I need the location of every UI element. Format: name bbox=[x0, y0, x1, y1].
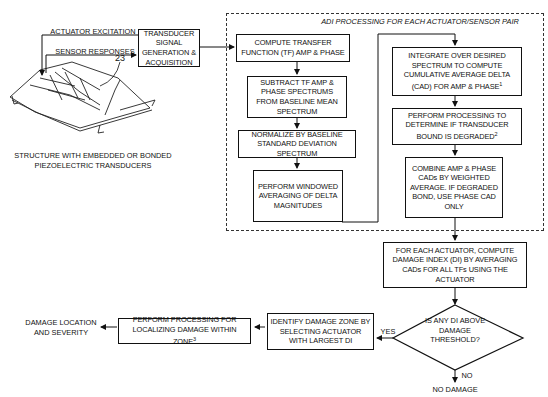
actuator-excitation-label: ACTUATOR EXCITATION bbox=[48, 27, 138, 37]
adi-group-title: ADI PROCESSING FOR EACH ACTUATOR/SENSOR … bbox=[300, 17, 540, 27]
damage-location-output: DAMAGE LOCATION AND SEVERITY bbox=[22, 318, 100, 337]
yes-label: YES bbox=[380, 327, 396, 337]
transducer-signal-box: TRANSDUCER SIGNAL GENERATION & ACQUISITI… bbox=[138, 29, 200, 67]
combine-cads-box: COMBINE AMP & PHASE CADs BY WEIGHTED AVE… bbox=[405, 157, 503, 218]
damage-index-box: FOR EACH ACTUATOR, COMPUTE DAMAGE INDEX … bbox=[383, 242, 527, 288]
localize-damage-box: PERFORM PROCESSING FOR LOCALIZING DAMAGE… bbox=[118, 318, 251, 344]
normalize-box: NORMALIZE BY BASELINE STANDARD DEVIATION… bbox=[238, 130, 356, 158]
subtract-spectrum-box: SUBTRACT TF AMP & PHASE SPECTRUMS FROM B… bbox=[247, 76, 347, 118]
structure-caption: STRUCTURE WITH EMBEDDED OR BONDED PIEZOE… bbox=[8, 151, 178, 170]
no-damage-label: NO DAMAGE bbox=[420, 385, 490, 395]
identify-zone-box: IDENTIFY DAMAGE ZONE BY SELECTING ACTUAT… bbox=[267, 313, 374, 350]
integrate-cad-box: INTEGRATE OVER DESIRED SPECTRUM TO COMPU… bbox=[392, 47, 522, 96]
bond-check-box: PERFORM PROCESSING TO DETERMINE IF TRANS… bbox=[392, 108, 522, 145]
compute-tf-box: COMPUTE TRANSFER FUNCTION (TF) AMP & PHA… bbox=[236, 34, 350, 62]
decision-text: IS ANY DI ABOVE DAMAGE THRESHOLD? bbox=[418, 316, 492, 345]
reference-numeral: 23 bbox=[113, 54, 127, 64]
no-label: NO bbox=[459, 371, 475, 381]
wing-structure-illustration bbox=[10, 62, 155, 133]
windowed-averaging-box: PERFORM WINDOWED AVERAGING OF DELTA MAGN… bbox=[253, 170, 343, 222]
